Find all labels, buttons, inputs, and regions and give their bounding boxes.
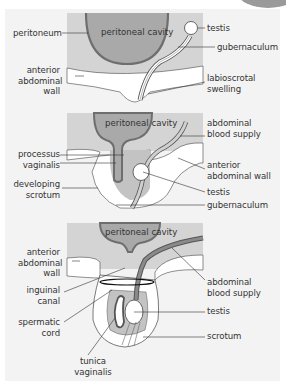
- stage-3-illustration: [64, 223, 205, 355]
- stage-2-peritoneal-cavity-label: peritoneal cavity: [105, 118, 177, 128]
- label-gubernaculum-2: gubernaculum: [207, 200, 268, 211]
- label-testis-1: testis: [207, 23, 230, 34]
- stage-1-peritoneal-cavity-label: peritoneal cavity: [101, 27, 173, 37]
- label-inguinal-canal: inguinalcanal: [18, 285, 60, 306]
- label-peritoneum: peritoneum: [13, 28, 62, 39]
- label-text: inguinalcanal: [27, 285, 60, 306]
- label-gubernaculum-1: gubernaculum: [217, 42, 278, 53]
- label-processus-vaginalis: processusvaginalis: [8, 149, 60, 170]
- label-labioscrotal-swelling: labioscrotalswelling: [207, 73, 255, 94]
- label-scrotum: scrotum: [207, 331, 241, 342]
- label-text: anteriorabdominal wall: [207, 160, 271, 181]
- label-text: abdominalblood supply: [207, 118, 261, 139]
- label-text: anteriorabdominalwall: [18, 247, 62, 278]
- label-text: anteriorabdominalwall: [18, 65, 62, 96]
- label-anterior-abdominal-wall-2: anteriorabdominal wall: [207, 160, 271, 181]
- label-testis-2: testis: [207, 187, 230, 198]
- label-abdominal-blood-supply-3: abdominalblood supply: [207, 277, 261, 298]
- label-tunica-vaginalis: tunicavaginalis: [73, 356, 113, 377]
- label-text: developingscrotum: [13, 179, 60, 200]
- stage-3-peritoneal-cavity-label: peritoneal cavity: [105, 227, 177, 237]
- label-text: labioscrotalswelling: [207, 73, 255, 94]
- label-developing-scrotum: developingscrotum: [8, 179, 60, 200]
- label-text: spermaticcord: [18, 317, 60, 338]
- label-spermatic-cord: spermaticcord: [8, 317, 60, 338]
- label-testis-3: testis: [207, 306, 230, 317]
- label-anterior-abdominal-wall-1: anteriorabdominalwall: [18, 65, 60, 97]
- label-text: abdominalblood supply: [207, 277, 261, 298]
- label-anterior-abdominal-wall-3: anteriorabdominalwall: [18, 247, 60, 279]
- label-text: processusvaginalis: [18, 149, 60, 170]
- label-text: tunicavaginalis: [74, 356, 111, 377]
- label-abdominal-blood-supply-2: abdominalblood supply: [207, 118, 261, 139]
